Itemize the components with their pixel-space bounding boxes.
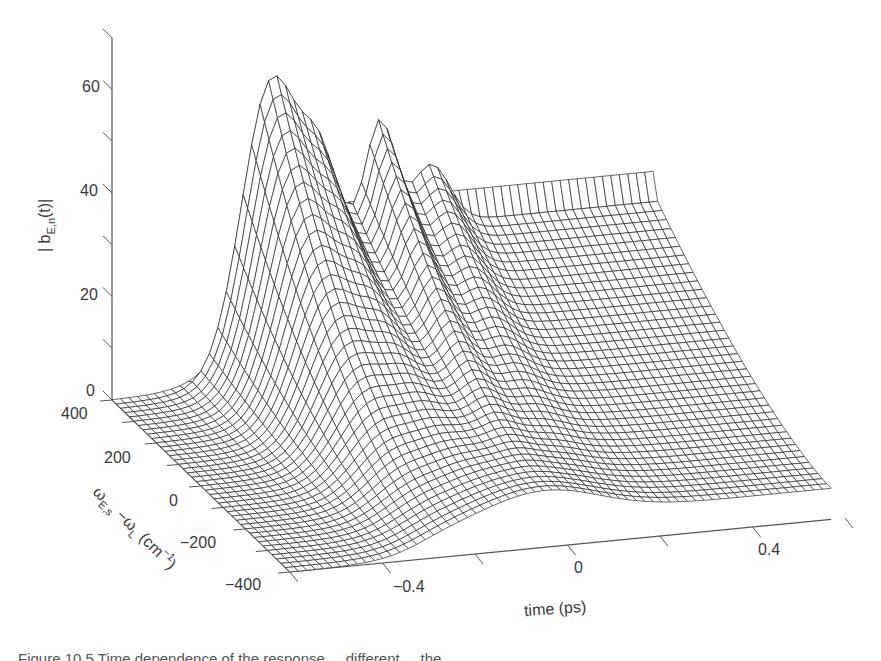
z-tick-0: 0	[86, 382, 95, 400]
x-tick-0: 0	[574, 559, 583, 577]
y-tick-minus200: −200	[180, 534, 216, 552]
x-tick-minus0.4: −0.4	[393, 578, 425, 596]
z-tick-60: 60	[82, 78, 100, 96]
z-tick-40: 40	[80, 182, 98, 200]
z-tick-20: 20	[80, 286, 98, 304]
y-tick-minus400: −400	[225, 576, 261, 594]
surface-plot: 60 40 20 0 | bE,n(t)| 400 200 0 −200 −40…	[0, 0, 881, 661]
y-tick-0: 0	[169, 492, 178, 510]
y-tick-200: 200	[104, 449, 131, 467]
y-tick-400: 400	[61, 405, 88, 423]
plot-canvas	[0, 0, 881, 661]
z-axis-label: | bE,n(t)|	[36, 199, 54, 252]
x-tick-0.4: 0.4	[758, 541, 780, 559]
wireframe-mesh	[112, 76, 831, 572]
figure-caption: Figure 10.5 Time dependence of the respo…	[18, 650, 458, 661]
